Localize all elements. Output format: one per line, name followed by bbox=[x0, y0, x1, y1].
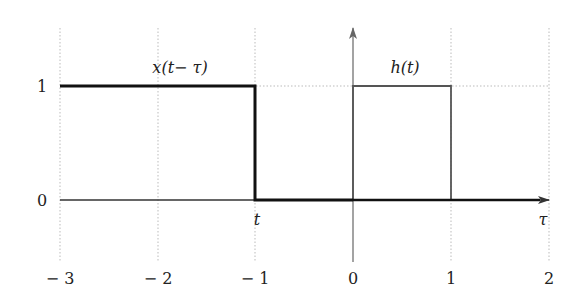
xtick-label-1: 1 bbox=[446, 269, 456, 288]
t-marker-label: t bbox=[254, 210, 261, 229]
h-signal-line bbox=[353, 86, 451, 200]
vertical-gridlines bbox=[60, 28, 549, 262]
tau-axis-label: τ bbox=[539, 210, 549, 229]
convolution-plot: 1 0 − 3 − 2 − 1 0 1 2 x(t− τ) h(t) t τ bbox=[0, 0, 578, 303]
xtick-label-2: 2 bbox=[544, 269, 554, 288]
x-signal-line bbox=[60, 86, 353, 200]
ytick-label-1: 1 bbox=[37, 77, 47, 96]
xtick-label-m1: − 1 bbox=[241, 269, 270, 288]
xtick-label-m2: − 2 bbox=[144, 269, 173, 288]
xtick-label-0: 0 bbox=[348, 269, 358, 288]
xtick-label-m3: − 3 bbox=[46, 269, 75, 288]
h-signal-label: h(t) bbox=[390, 58, 419, 77]
x-signal-label: x(t− τ) bbox=[152, 58, 207, 77]
ytick-label-0: 0 bbox=[37, 191, 47, 210]
